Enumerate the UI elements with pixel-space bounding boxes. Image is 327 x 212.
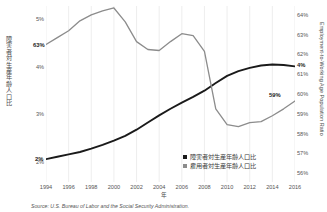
plot-svg: [46, 6, 295, 182]
plot-area: [46, 6, 295, 182]
legend-swatch-icon: [183, 155, 187, 159]
left-axis-tick: 5%: [24, 16, 44, 22]
chart-legend: 障害者対生産年齢人口比雇用者対生産年齢人口比: [183, 152, 256, 170]
right-axis-title: Employment-to-Working Age Population Rat…: [319, 22, 325, 136]
right-axis-tick: 63%: [297, 32, 317, 38]
right-axis-tick: 58%: [297, 131, 317, 137]
left-axis-title: 障害者対生産年齢人口比: [1, 36, 12, 106]
legend-item-1[interactable]: 雇用者対生産年齢人口比: [183, 161, 256, 170]
gray-end-label: 59%: [269, 92, 281, 98]
x-axis-tick: 2016: [282, 184, 308, 190]
gray-start-label: 63%: [33, 42, 45, 48]
right-axis-tick: 61%: [297, 71, 317, 77]
left-axis-tick: 4%: [24, 64, 44, 70]
legend-label: 雇用者対生産年齢人口比: [190, 161, 256, 170]
black-start-label: 2%: [35, 156, 43, 162]
legend-item-0[interactable]: 障害者対生産年齢人口比: [183, 152, 256, 161]
black-end-label: 4%: [297, 62, 305, 68]
right-axis-tick: 64%: [297, 12, 317, 18]
right-axis-tick: 62%: [297, 51, 317, 57]
legend-label: 障害者対生産年齢人口比: [190, 152, 256, 161]
series-line-0: [46, 65, 295, 160]
chart-figure: 障害者対生産年齢人口比 5%4%3%2% 64%63%62%61%60%59%5…: [0, 0, 327, 212]
right-axis-tick: 59%: [297, 111, 317, 117]
x-axis-title: 年: [0, 191, 327, 199]
left-axis-tick: 3%: [24, 111, 44, 117]
right-axis-tick: 56%: [297, 170, 317, 176]
right-axis-tick: 60%: [297, 91, 317, 97]
source-note: Source: U.S. Bureau of Labor and the Soc…: [31, 203, 189, 209]
legend-swatch-icon: [183, 164, 187, 168]
right-axis-tick: 57%: [297, 150, 317, 156]
